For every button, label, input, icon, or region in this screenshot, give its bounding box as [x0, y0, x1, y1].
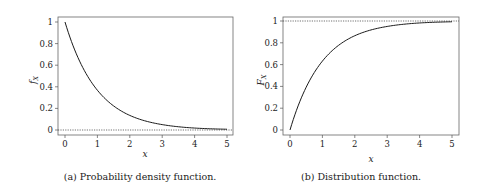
y-tick-label: 0 — [48, 125, 53, 135]
cdf-plot-frame — [283, 17, 459, 135]
cdf-x-ticks: 012345 — [287, 135, 454, 149]
pdf-x-label: x — [142, 149, 147, 159]
y-tick-label: 0.8 — [264, 38, 278, 48]
x-tick-label: 0 — [62, 139, 67, 149]
y-tick-label: 0.2 — [39, 103, 53, 113]
pdf-y-ticks: 00.20.40.60.81 — [39, 17, 58, 135]
cdf-x-label: x — [368, 154, 373, 164]
y-tick-label: 1 — [273, 16, 278, 26]
x-tick-label: 1 — [320, 139, 325, 149]
x-tick-label: 1 — [95, 139, 100, 149]
svg-text:fX: fX — [28, 76, 40, 85]
y-tick-label: 1 — [48, 17, 53, 27]
x-tick-label: 4 — [192, 139, 197, 149]
cdf-curve — [290, 22, 452, 130]
cdf-chart: 012345 00.20.40.60.81 x FX (b) Distribut… — [256, 16, 459, 182]
figure: 012345 00.20.40.60.81 x fX (a) Probabili… — [0, 0, 482, 190]
x-tick-label: 5 — [449, 139, 454, 149]
pdf-x-ticks: 012345 — [62, 135, 229, 149]
x-tick-label: 3 — [384, 139, 389, 149]
x-tick-label: 2 — [352, 139, 357, 149]
pdf-y-label: fX — [28, 76, 40, 85]
x-tick-label: 5 — [224, 139, 229, 149]
y-tick-label: 0.2 — [264, 103, 278, 113]
pdf-curve — [65, 22, 227, 129]
y-tick-label: 0.4 — [39, 82, 53, 92]
pdf-plot-frame — [58, 17, 233, 135]
x-tick-label: 4 — [417, 139, 422, 149]
x-tick-label: 0 — [287, 139, 292, 149]
x-tick-label: 2 — [127, 139, 132, 149]
y-tick-label: 0.4 — [264, 81, 278, 91]
x-tick-label: 3 — [159, 139, 164, 149]
y-tick-label: 0 — [273, 125, 278, 135]
y-tick-label: 0.6 — [39, 60, 53, 70]
pdf-caption: (a) Probability density function. — [64, 171, 217, 182]
y-tick-label: 0.6 — [264, 60, 278, 70]
pdf-chart: 012345 00.20.40.60.81 x fX (a) Probabili… — [28, 17, 233, 182]
cdf-caption: (b) Distribution function. — [301, 171, 421, 182]
y-tick-label: 0.8 — [39, 39, 53, 49]
